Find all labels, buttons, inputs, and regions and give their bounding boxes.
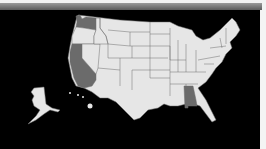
window-title-bar [0,3,262,10]
right-margin [260,10,266,149]
state-alaska[interactable] [28,87,60,124]
us-map [0,10,260,149]
map-panel [0,10,260,149]
state-hawaii[interactable] [69,92,93,109]
state-oregon[interactable] [72,27,96,44]
